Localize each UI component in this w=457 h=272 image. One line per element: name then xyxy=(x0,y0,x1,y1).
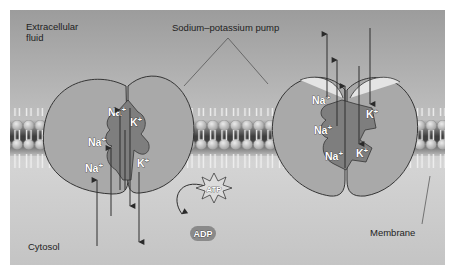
svg-text:ADP: ADP xyxy=(193,229,212,239)
extracellular-fluid-label: Extracellular fluid xyxy=(26,21,78,43)
membrane-label: Membrane xyxy=(370,227,415,238)
cytosol-label: Cytosol xyxy=(28,241,60,252)
sodium-potassium-pump-label: Sodium–potassium pump xyxy=(172,22,279,33)
svg-text:ATP: ATP xyxy=(206,185,222,194)
left-pump-protein xyxy=(43,76,194,194)
